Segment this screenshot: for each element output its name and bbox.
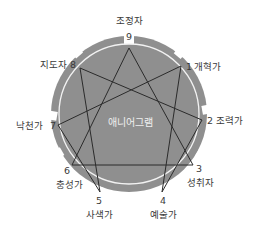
- label-8-number: 8: [70, 59, 76, 70]
- center-title: 애니어그램: [108, 117, 153, 128]
- label-5-name: 사색가: [86, 209, 113, 220]
- label-8-name: 지도자: [40, 59, 67, 70]
- label-4-name: 예술가: [150, 209, 177, 220]
- label-4-number: 4: [160, 195, 166, 206]
- label-6-number: 6: [64, 165, 70, 176]
- label-6-name: 충성가: [56, 179, 83, 190]
- label-2-name: 조력가: [216, 115, 243, 126]
- label-5-number: 5: [96, 195, 102, 206]
- label-3-name: 성취자: [187, 177, 214, 188]
- label-1-number: 1: [186, 61, 192, 72]
- label-9-name: 조정자: [116, 15, 143, 26]
- label-7-number: 7: [50, 120, 56, 131]
- label-7-name: 낙천가: [16, 120, 43, 131]
- label-3-number: 3: [196, 163, 202, 174]
- label-9-number: 9: [126, 31, 132, 42]
- label-2-number: 2: [207, 115, 213, 126]
- enneagram-diagram: 애니어그램 조정자 9 1 개혁가 2 조력가 3 성취자 4 예술가 5 사색…: [0, 0, 254, 234]
- label-1-name: 개혁가: [194, 61, 221, 72]
